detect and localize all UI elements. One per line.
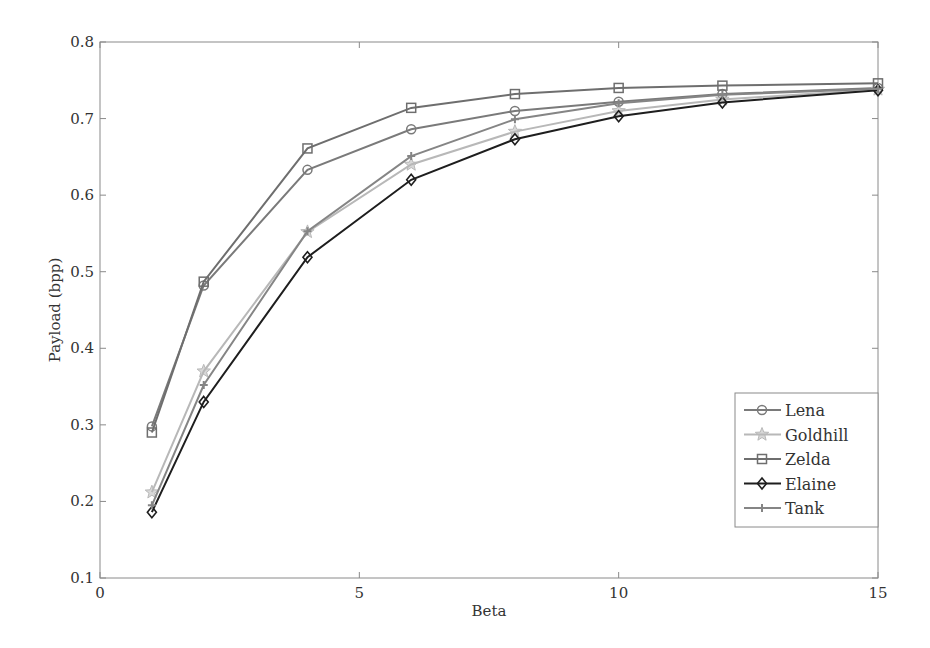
y-axis-label: Payload (bpp) <box>46 258 64 363</box>
legend-label: Elaine <box>785 475 836 494</box>
y-tick-label: 0.6 <box>70 186 94 204</box>
legend: LenaGoldhillZeldaElaineTank <box>735 393 878 527</box>
legend-label: Lena <box>785 401 825 420</box>
y-tick-label: 0.3 <box>70 416 94 434</box>
x-tick-label: 5 <box>355 584 365 602</box>
line-chart: 0.10.20.30.40.50.60.70.8 051015 Beta Pay… <box>0 0 930 648</box>
x-tick-label: 15 <box>868 584 887 602</box>
x-tick-label: 0 <box>95 584 105 602</box>
y-tick-label: 0.5 <box>70 263 94 281</box>
legend-label: Zelda <box>785 450 831 469</box>
x-tick-label: 10 <box>609 584 628 602</box>
y-tick-label: 0.4 <box>70 339 94 357</box>
y-tick-label: 0.2 <box>70 492 94 510</box>
y-tick-label: 0.1 <box>70 569 94 587</box>
y-tick-label: 0.8 <box>70 33 94 51</box>
legend-label: Goldhill <box>785 426 848 445</box>
x-axis-label: Beta <box>472 602 507 620</box>
legend-label: Tank <box>785 499 824 518</box>
y-tick-label: 0.7 <box>70 110 94 128</box>
